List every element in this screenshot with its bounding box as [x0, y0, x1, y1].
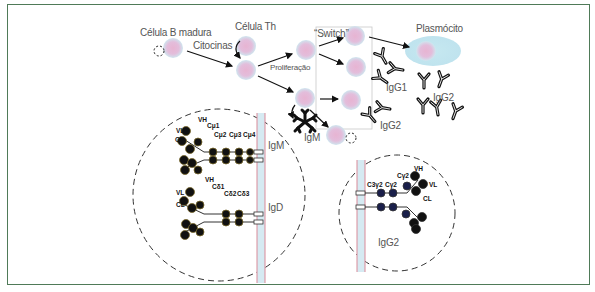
- switched-cell-3: [341, 90, 361, 110]
- igg2-middle-label: IgG2: [380, 120, 401, 131]
- mature-b-cell: [154, 38, 183, 58]
- igm-secreting-cell: [326, 125, 356, 145]
- igg2-plasma-label: IgG2: [433, 92, 454, 103]
- igd-c1-label: Cδ1: [212, 183, 224, 190]
- proliferating-cell-2: [295, 88, 315, 108]
- igm-label: IgM: [268, 140, 284, 151]
- igm-c2-label: Cμ2: [214, 131, 226, 138]
- igm-c4-label: Cμ4: [243, 131, 255, 138]
- igd-vl-label: VL: [176, 189, 184, 196]
- igd-label: IgD: [268, 202, 283, 213]
- igg1-label: IgG1: [386, 82, 407, 93]
- th-cell-label: Célula Th: [235, 21, 276, 32]
- igg2-vh-label: VH: [414, 165, 423, 172]
- igm-vl-label: VL: [176, 127, 184, 134]
- membrane-left: [257, 113, 265, 283]
- th-cell: [236, 36, 256, 56]
- plasma-cell: [405, 36, 461, 66]
- switched-cell-2: [346, 57, 366, 77]
- igm-cl-label: CL: [175, 136, 184, 143]
- plasma-cell-label: Plasmócito: [416, 23, 463, 34]
- igd-vh-label: VH: [205, 176, 214, 183]
- cytokines-label: Citocinas: [193, 40, 232, 51]
- igg2-vl-label: VL: [429, 181, 437, 188]
- igm-vh-label: VH: [198, 116, 207, 123]
- membrane-right: [357, 160, 365, 272]
- igg1-antibodies-icon: [373, 49, 404, 87]
- igm-c1-label: Cμ1: [207, 122, 219, 129]
- activated-b-cell: [236, 60, 256, 80]
- mature-b-cell-label: Célula B madura: [140, 27, 211, 38]
- igm-c3-label: Cμ3: [229, 131, 241, 138]
- igg2-cl-label: CL: [423, 195, 432, 202]
- proliferating-cell-1: [296, 40, 316, 60]
- igg2-panel-label: IgG2: [378, 237, 399, 248]
- diagram-canvas: [0, 0, 595, 292]
- switch-label: “Switch”: [314, 28, 349, 39]
- igg2-c1-label: Cγ2: [397, 172, 409, 179]
- igm-secreted-label: IgM: [304, 132, 320, 143]
- igg2-c3-label: C3γ2: [367, 181, 383, 188]
- proliferation-label: Proliferação: [270, 63, 310, 72]
- igd-cl-label: CL: [176, 201, 185, 208]
- igd-c2-label: Cδ2: [224, 190, 236, 197]
- igd-structure: [180, 188, 264, 240]
- igg2-c2-label: Cγ2: [385, 181, 397, 188]
- igd-c3-label: Cδ3: [237, 190, 249, 197]
